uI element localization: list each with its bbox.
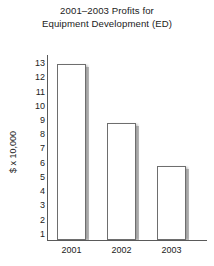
y-tick-label: 9: [27, 116, 45, 125]
chart-title-line-1: 2001–2003 Profits for: [0, 4, 214, 17]
bar-shadow: [86, 67, 89, 240]
bar-2001: [57, 64, 86, 240]
y-tick-label: 1: [27, 230, 45, 239]
y-tick-label: 13: [27, 59, 45, 68]
y-tick-label: 7: [27, 144, 45, 153]
chart-title: 2001–2003 Profits for Equipment Developm…: [0, 4, 214, 30]
y-axis-label: $ x 10,000: [8, 110, 18, 194]
y-axis-tick-labels: 13121110987654321: [27, 55, 45, 241]
plot-area: 13121110987654321 200120022003: [47, 55, 207, 243]
bar-2003: [157, 166, 186, 240]
y-tick-label: 6: [27, 159, 45, 168]
y-tick-label: 3: [27, 201, 45, 210]
bar-2002: [107, 123, 136, 240]
bar-chart-figure: 2001–2003 Profits for Equipment Developm…: [0, 0, 214, 266]
bar-shadow: [136, 126, 139, 240]
y-tick-label: 10: [27, 102, 45, 111]
chart-title-line-2: Equipment Development (ED): [0, 17, 214, 30]
y-tick-label: 12: [27, 73, 45, 82]
y-axis-label-container: $ x 10,000: [0, 110, 16, 200]
bar-shadow: [186, 169, 189, 240]
y-tick-label: 2: [27, 216, 45, 225]
y-tick-label: 5: [27, 173, 45, 182]
x-axis-tick-labels: 200120022003: [47, 245, 207, 259]
x-tick-label: 2001: [56, 245, 88, 256]
x-tick-label: 2003: [156, 245, 188, 256]
y-tick-label: 11: [27, 88, 45, 97]
bars-layer: [47, 55, 207, 241]
y-tick-label: 8: [27, 130, 45, 139]
x-tick-label: 2002: [106, 245, 138, 256]
y-tick-label: 4: [27, 187, 45, 196]
